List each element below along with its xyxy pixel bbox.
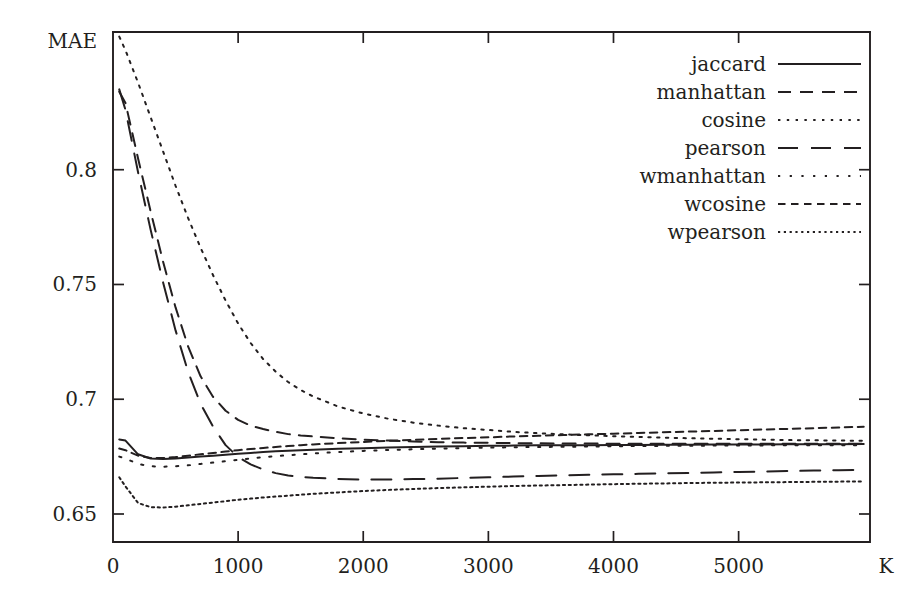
line-chart-plot: 0.650.70.750.8010002000300040005000MAEK … bbox=[0, 0, 916, 612]
series-line-wcosine bbox=[119, 427, 863, 458]
legend-label-wpearson: wpearson bbox=[668, 220, 767, 244]
chart-figure: 0.650.70.750.8010002000300040005000MAEK … bbox=[0, 0, 916, 612]
x-tick-label-5000: 5000 bbox=[713, 554, 764, 578]
y-tick-label-0.7: 0.7 bbox=[65, 387, 97, 411]
legend-label-jaccard: jaccard bbox=[689, 52, 766, 76]
legend-label-wcosine: wcosine bbox=[684, 192, 766, 216]
y-axis-title: MAE bbox=[47, 29, 97, 53]
y-tick-label-0.65: 0.65 bbox=[52, 502, 97, 526]
legend-label-pearson: pearson bbox=[685, 136, 766, 160]
legend-label-wmanhattan: wmanhattan bbox=[639, 164, 766, 188]
x-tick-label-4000: 4000 bbox=[588, 554, 639, 578]
series-line-wpearson bbox=[119, 477, 863, 507]
chart-legend: jaccardmanhattancosinepearsonwmanhattanw… bbox=[639, 52, 861, 244]
x-tick-label-1000: 1000 bbox=[213, 554, 264, 578]
series-line-wmanhattan bbox=[119, 445, 863, 467]
x-axis-title: K bbox=[879, 554, 895, 578]
x-tick-label-3000: 3000 bbox=[463, 554, 514, 578]
legend-label-cosine: cosine bbox=[701, 108, 766, 132]
y-tick-label-0.8: 0.8 bbox=[65, 158, 97, 182]
x-tick-label-2000: 2000 bbox=[338, 554, 389, 578]
x-tick-label-0: 0 bbox=[107, 554, 120, 578]
legend-label-manhattan: manhattan bbox=[657, 80, 767, 104]
y-tick-label-0.75: 0.75 bbox=[52, 272, 97, 296]
